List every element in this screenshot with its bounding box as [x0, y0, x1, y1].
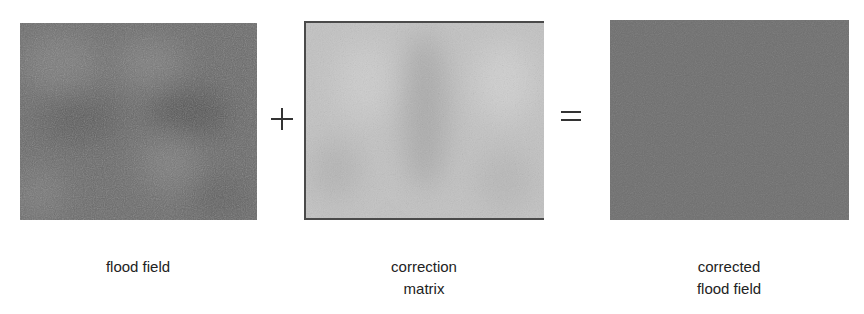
correction-matrix-label: correction matrix [344, 256, 504, 300]
corrected-flood-field-label: corrected flood field [649, 256, 809, 300]
flood-field-image [20, 23, 257, 220]
equals-operator [561, 111, 581, 123]
flood-field-label: flood field [58, 256, 218, 278]
correction-matrix-image [304, 21, 544, 220]
plus-operator [271, 108, 293, 130]
corrected-flood-field-image [610, 20, 849, 220]
